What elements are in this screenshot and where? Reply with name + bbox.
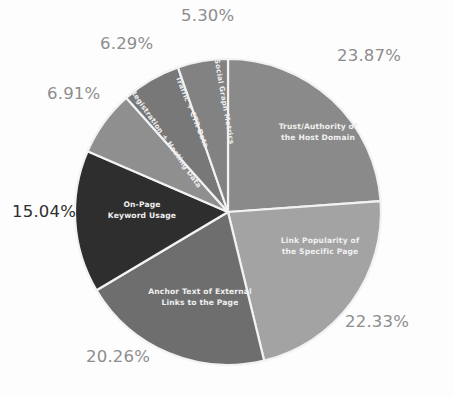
pie-slice-label: Anchor Text of ExternalLinks to the Page: [148, 287, 252, 307]
pie-percentage-label: 5.30%: [181, 6, 234, 25]
pie-percentage-label: 20.26%: [86, 347, 150, 366]
pie-percentage-label: 6.91%: [47, 84, 100, 103]
pie-percentage-label: 22.33%: [345, 312, 409, 331]
pie-slice-label: Link Popularity ofthe Specific Page: [281, 236, 360, 256]
pie-chart-page: Trust/Authority ofthe Host DomainLink Po…: [0, 0, 454, 398]
pie-percentage-label: 15.04%: [12, 202, 76, 221]
pie-slice-label: Trust/Authority ofthe Host Domain: [279, 122, 358, 142]
pie-percentage-label: 23.87%: [337, 46, 401, 65]
pie-percentage-label: 6.29%: [100, 34, 153, 53]
